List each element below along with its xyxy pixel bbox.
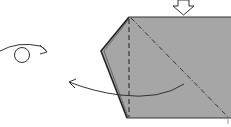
paper-shape [101,17,231,118]
origami-diagram [0,0,231,127]
turn-over-icon [0,44,47,62]
push-arrow-icon [173,0,194,15]
